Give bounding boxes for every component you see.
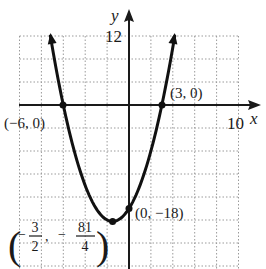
point-neg6-0 <box>60 102 67 109</box>
label-vertex: ( − 3 2 , − 81 4 ) <box>8 220 109 268</box>
label-3-0: (3, 0) <box>170 85 203 102</box>
x-tick-label: 10 <box>227 114 244 133</box>
point-vertex <box>109 218 116 225</box>
y-axis-label: y <box>109 6 119 25</box>
vertex-minus-2: − <box>58 227 66 242</box>
x-axis-label: x <box>249 109 258 128</box>
vertex-num-2: 81 <box>78 220 92 235</box>
parabola-graph: y 12 10 x (−6, 0) (3, 0) (0, −18) ( − 3 … <box>0 0 266 269</box>
curve-left-arrow-icon <box>48 33 57 45</box>
label-neg6-0: (−6, 0) <box>4 115 45 132</box>
point-0-neg18 <box>126 205 133 212</box>
parabola-curve <box>50 36 174 222</box>
vertex-minus-1: − <box>18 227 26 242</box>
y-tick-label: 12 <box>105 27 122 46</box>
vertex-den-2: 4 <box>82 239 89 254</box>
label-0-neg18: (0, −18) <box>135 205 183 222</box>
point-3-0 <box>159 102 166 109</box>
vertex-den-1: 2 <box>32 239 39 254</box>
vertex-comma: , <box>45 229 49 244</box>
curve-right-arrow-icon <box>169 33 178 45</box>
vertex-num-1: 3 <box>32 220 39 235</box>
vertex-close-paren: ) <box>96 223 109 268</box>
